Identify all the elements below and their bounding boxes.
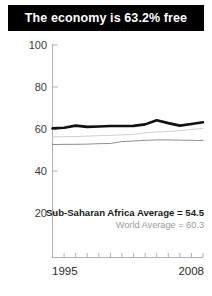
chart-series-group xyxy=(53,120,204,144)
y-tick-label-80: 80 xyxy=(35,81,47,93)
y-tick-label-100: 100 xyxy=(29,39,47,51)
series-line-0 xyxy=(53,120,204,128)
x-axis-label-start: 1995 xyxy=(52,265,78,277)
annotation-region-average: Sub-Saharan Africa Average = 54.5 xyxy=(46,207,205,218)
chart-container: The economy is 63.2% free 100 80 60 40 2… xyxy=(0,0,212,296)
chart-plot-area: 100 80 60 40 20 1995 2008 Sub-Saharan Af… xyxy=(0,0,212,296)
x-axis-label-end: 2008 xyxy=(178,265,204,277)
x-axis-ticks xyxy=(53,253,204,258)
annotation-world-average: World Average = 60.3 xyxy=(116,220,204,230)
y-tick-label-40: 40 xyxy=(35,165,47,177)
series-line-2 xyxy=(53,140,204,145)
series-line-1 xyxy=(53,128,204,136)
y-tick-label-60: 60 xyxy=(35,123,47,135)
